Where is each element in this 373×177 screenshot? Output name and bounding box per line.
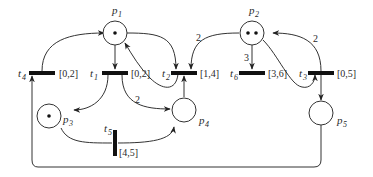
arc-p5-t4 — [32, 76, 321, 167]
svg-text:1: 1 — [118, 10, 122, 19]
token — [113, 31, 117, 35]
arc-t1-p3 — [74, 75, 108, 110]
place-p3: p3 — [37, 104, 73, 128]
svg-text:6: 6 — [234, 73, 238, 82]
svg-text:[3,6]: [3,6] — [268, 68, 287, 79]
transition-t1: t1 [0,2] — [90, 67, 150, 82]
transition-t5: t5 [4,5] — [104, 122, 138, 158]
token — [254, 31, 258, 35]
place-p1: p1 — [103, 4, 127, 45]
svg-text:4: 4 — [205, 120, 209, 129]
arcs: 2 3 2 2 — [32, 32, 321, 167]
svg-text:3: 3 — [302, 73, 307, 82]
svg-text:3: 3 — [68, 119, 73, 128]
arc-t5-p4 — [118, 127, 174, 143]
svg-text:[0,5]: [0,5] — [337, 68, 356, 79]
svg-text:[0,2]: [0,2] — [131, 68, 150, 79]
transition-t4: t4 [0,2] — [18, 67, 78, 82]
petri-net-diagram: 2 3 2 2 p1 p2 p3 — [0, 0, 373, 177]
arc-t4-p1 — [42, 33, 104, 71]
weight-p2-t2: 2 — [196, 32, 201, 43]
weight-p2-t6: 3 — [244, 52, 249, 63]
svg-text:p: p — [248, 4, 255, 16]
svg-text:1: 1 — [94, 73, 98, 82]
svg-text:[0,2]: [0,2] — [59, 68, 78, 79]
place-p5: p5 — [309, 101, 347, 129]
transition-t3: t3 [0,5] — [299, 67, 356, 82]
svg-text:2: 2 — [255, 10, 259, 19]
svg-text:p: p — [111, 4, 118, 16]
svg-text:4: 4 — [22, 73, 26, 82]
svg-text:p: p — [62, 113, 69, 125]
svg-text:2: 2 — [166, 73, 170, 82]
svg-text:[1,4]: [1,4] — [200, 68, 219, 79]
svg-text:5: 5 — [108, 128, 112, 137]
arc-t1-p4 — [122, 75, 170, 109]
token — [246, 31, 250, 35]
arc-p2-t3 — [263, 40, 315, 87]
svg-text:[4,5]: [4,5] — [119, 147, 138, 158]
weight-t3-p2: 2 — [313, 33, 318, 44]
arc-p1-t2 — [127, 33, 176, 69]
svg-text:p: p — [336, 114, 343, 126]
transition-t2: t2 [1,4] — [162, 67, 219, 82]
transition-t6: t6 [3,6] — [230, 67, 287, 82]
place-p2: p2 — [240, 4, 264, 45]
arc-t2-p1 — [125, 43, 178, 87]
svg-text:p: p — [198, 114, 205, 126]
weight-t1-p4: 2 — [135, 94, 140, 105]
svg-text:5: 5 — [343, 120, 347, 129]
place-p4: p4 — [172, 98, 209, 129]
token — [47, 114, 51, 118]
